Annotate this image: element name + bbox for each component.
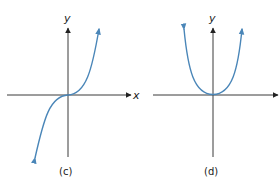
graph-d: y (d)	[153, 12, 278, 177]
x-axis-label: x	[132, 89, 140, 102]
figure: y x (c) y (d)	[0, 0, 280, 187]
graph-c: y x (c)	[7, 12, 140, 177]
cubic-curve	[35, 29, 99, 158]
y-axis-label: y	[208, 12, 216, 25]
caption-c: (c)	[59, 166, 72, 177]
y-axis-label: y	[63, 12, 71, 25]
caption-d: (d)	[204, 166, 218, 177]
